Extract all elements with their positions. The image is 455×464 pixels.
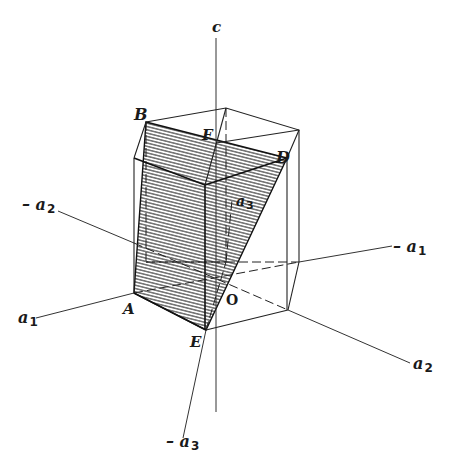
label-point-o: O — [226, 292, 238, 308]
label-c: c — [212, 18, 221, 36]
minus-a2-axis-line — [58, 211, 134, 243]
hatched-plane-bdea — [134, 122, 287, 330]
crystal-axes-diagram: c – a2 a1 – a1 a2 a3 – a3 B F D A O E — [0, 0, 455, 464]
a2-axis-line — [288, 310, 410, 363]
label-point-f: F — [201, 126, 214, 144]
label-point-e: E — [189, 333, 202, 351]
label-point-d: D — [275, 148, 290, 167]
label-minus-a2: – a2 — [22, 195, 55, 216]
label-minus-a3: – a3 — [166, 432, 199, 453]
label-a1: a1 — [18, 308, 38, 329]
label-point-a: A — [121, 300, 135, 318]
minus-a1-axis-line — [299, 246, 392, 262]
label-a2: a2 — [413, 354, 433, 375]
a1-axis-line — [36, 293, 134, 318]
label-point-b: B — [133, 105, 148, 124]
label-minus-a1: – a1 — [393, 237, 426, 258]
